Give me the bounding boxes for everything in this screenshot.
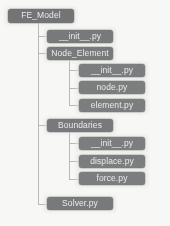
tree-node-init-node-element[interactable]: __init__.py bbox=[79, 64, 145, 77]
tree-node-force-py[interactable]: force.py bbox=[79, 172, 145, 185]
tree-node-element-py[interactable]: element.py bbox=[79, 99, 145, 112]
tree-node-boundaries[interactable]: Boundaries bbox=[47, 119, 113, 132]
connector-trunk-boundaries bbox=[69, 132, 70, 179]
tree-node-displace-py[interactable]: displace.py bbox=[79, 155, 145, 168]
tree-node-fe-model[interactable]: FE_Model bbox=[8, 9, 74, 23]
connector-trunk-root bbox=[38, 23, 39, 204]
tree-node-solver-py[interactable]: Solver.py bbox=[47, 197, 113, 210]
tree-node-node-py[interactable]: node.py bbox=[79, 81, 145, 94]
package-tree-diagram: FE_Model __init__.py Node_Element __init… bbox=[0, 0, 170, 226]
connector-trunk-node-element bbox=[69, 60, 70, 106]
tree-node-init-boundaries[interactable]: __init__.py bbox=[79, 137, 145, 150]
tree-node-node-element[interactable]: Node_Element bbox=[47, 47, 113, 60]
tree-node-init-root[interactable]: __init__.py bbox=[47, 30, 113, 43]
